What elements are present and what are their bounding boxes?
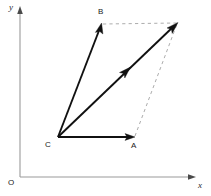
vector-cb-group bbox=[58, 23, 103, 137]
vector-resultant-shaft bbox=[58, 26, 174, 137]
y-axis-arrowhead bbox=[17, 6, 23, 14]
vector-ca-group bbox=[58, 134, 135, 141]
x-axis-arrowhead bbox=[188, 174, 196, 180]
vector-resultant-group bbox=[58, 23, 178, 138]
point-label-b: B bbox=[98, 8, 103, 16]
point-label-a: A bbox=[131, 142, 136, 150]
y-axis-label: y bbox=[9, 3, 13, 12]
dashed-line-b-to-d bbox=[103, 23, 177, 24]
dashed-line-a-to-d bbox=[135, 24, 177, 136]
axes-group bbox=[17, 6, 196, 180]
vector-cb-shaft bbox=[58, 28, 100, 137]
vector-diagram-figure: y x O C A B bbox=[0, 0, 211, 196]
origin-label: O bbox=[8, 179, 14, 187]
x-axis-label: x bbox=[198, 181, 202, 190]
point-label-c: C bbox=[45, 141, 51, 149]
vector-diagram-canvas bbox=[0, 0, 211, 196]
construction-lines-group bbox=[103, 23, 177, 136]
